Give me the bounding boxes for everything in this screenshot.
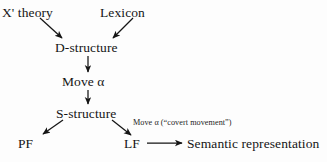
edge-lexicon-to-dstructure (113, 18, 133, 38)
annotation-covert-movement: Move α (“covert movement”) (133, 119, 232, 127)
edge-sstructure-to-lf (112, 120, 131, 135)
node-s-structure: S-structure (56, 107, 116, 121)
node-semantic-representation: Semantic representation (187, 137, 319, 151)
grammar-architecture-diagram: X' theory Lexicon D-structure Move α S-s… (0, 0, 327, 162)
node-pf: PF (18, 137, 33, 151)
node-lexicon: Lexicon (100, 6, 145, 20)
edge-sstructure-to-pf (43, 120, 63, 134)
node-d-structure: D-structure (55, 41, 118, 55)
node-move-alpha: Move α (62, 75, 105, 89)
node-lf: LF (124, 137, 140, 151)
node-x-bar-theory: X' theory (2, 6, 53, 20)
edge-xbar-to-dstructure (40, 18, 62, 38)
